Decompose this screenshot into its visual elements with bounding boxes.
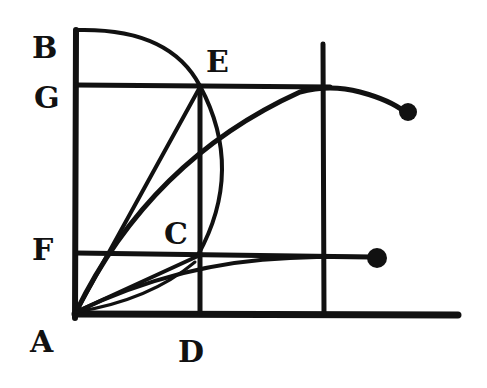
upper-trajectory <box>76 88 405 312</box>
lower-trajectory-endpoint <box>367 248 387 268</box>
label-A: A <box>29 324 54 359</box>
baseline-AD <box>75 314 458 315</box>
label-G: G <box>34 80 60 115</box>
label-F: F <box>32 232 53 267</box>
label-B: B <box>32 30 57 65</box>
upper-trajectory-endpoint <box>399 103 417 121</box>
line-GE <box>76 85 330 87</box>
label-D: D <box>178 334 204 369</box>
label-C: C <box>164 216 188 251</box>
vertical-axis-AB <box>75 30 76 318</box>
geometry-diagram: B G E C F A D <box>0 0 487 388</box>
vertical-line-right <box>323 44 324 314</box>
label-E: E <box>206 44 229 79</box>
